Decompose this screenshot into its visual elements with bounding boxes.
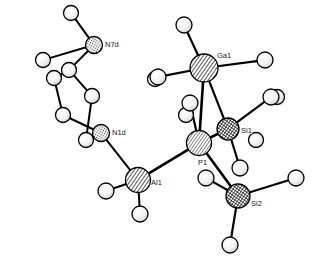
bond-R3-R5 <box>87 100 92 136</box>
bond-R1-R4 <box>55 82 62 111</box>
atom-gah3 <box>257 52 273 68</box>
atom-r4 <box>56 108 71 123</box>
atom-si1h1 <box>263 89 279 105</box>
bond-Ga1-GaH3 <box>212 61 261 67</box>
atom-label-p1: P1 <box>198 158 207 167</box>
bond-N1d-Al1 <box>104 137 134 175</box>
atom-r5 <box>79 133 94 148</box>
atom-r2 <box>62 63 77 78</box>
atom-label-si2: Si2 <box>251 199 262 208</box>
atom-si1h2 <box>232 160 248 176</box>
atom-layer <box>36 6 305 254</box>
atom-si2h2 <box>198 170 214 186</box>
atom-n1d <box>93 125 110 142</box>
bond-P1-Ga1 <box>199 76 203 136</box>
atom-gah1 <box>176 17 192 33</box>
atom-label-n7d: N7d <box>105 40 119 49</box>
atom-h7a <box>64 6 79 21</box>
atom-n7d <box>86 37 103 54</box>
atom-label-n1d: N1d <box>112 128 126 137</box>
atom-si1 <box>217 118 239 140</box>
atom-r3 <box>85 89 100 104</box>
atom-alh2 <box>132 206 148 222</box>
atom-alh1 <box>98 183 114 199</box>
atom-label-si1: Si1 <box>241 126 252 135</box>
molecular-structure-figure: N7dN1dGa1P1Si1Si2Al1 <box>0 0 312 260</box>
bond-R4-N1d <box>67 117 97 131</box>
bond-Al1-P1 <box>144 147 193 177</box>
atom-gah2 <box>150 69 166 85</box>
atom-ga1 <box>190 54 218 82</box>
atom-si2h3 <box>222 237 238 253</box>
atom-r1 <box>47 71 62 86</box>
atom-label-al1: Al1 <box>151 178 162 187</box>
atom-al1 <box>126 168 151 193</box>
structure-canvas: N7dN1dGa1P1Si1Si2Al1 <box>0 0 312 260</box>
bond-Si2-Si2H1 <box>244 179 291 194</box>
atom-h7b <box>36 53 51 68</box>
atom-ph1 <box>182 95 198 111</box>
atom-label-ga1: Ga1 <box>217 51 231 60</box>
atom-p1 <box>187 131 212 156</box>
bond-H7a-N7d <box>73 16 91 41</box>
atom-si2h1 <box>288 170 304 186</box>
bond-Si1-Si1H1 <box>233 100 268 126</box>
bond-Si1-Ga1 <box>207 75 226 123</box>
atom-si2 <box>226 184 250 208</box>
